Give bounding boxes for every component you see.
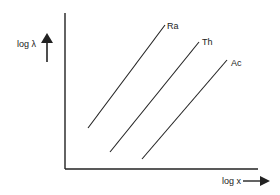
- diagram-canvas: [0, 0, 280, 195]
- x-axis-label: log x: [222, 177, 241, 186]
- line-ra: [88, 25, 165, 128]
- line-label-ac: Ac: [231, 59, 242, 68]
- y-arrow-icon: [41, 33, 53, 62]
- x-arrow-icon: [243, 176, 270, 186]
- line-label-th: Th: [202, 38, 213, 47]
- line-label-ra: Ra: [167, 22, 179, 31]
- y-axis-label: log λ: [17, 40, 36, 49]
- line-th: [110, 42, 199, 152]
- line-ac: [142, 60, 227, 159]
